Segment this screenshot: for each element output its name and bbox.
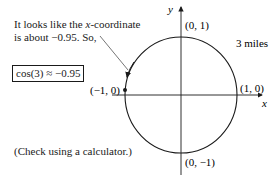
point-label-top: (0, 1) [185, 19, 209, 32]
point-label-bottom: (0, −1) [185, 156, 215, 169]
point-label-left: (−1, 0) [90, 84, 120, 97]
point-label-right: (1, 0) [240, 82, 264, 95]
unit-circle-diagram: y x (0, 1) 3 miles (−1, 0) (1, 0) (0, −1… [0, 0, 277, 185]
arc-length-label: 3 miles [236, 37, 268, 49]
leader-line [100, 36, 128, 70]
y-axis-label: y [167, 3, 173, 15]
x-axis-label: x [261, 97, 267, 109]
endpoint-marker [123, 88, 127, 92]
